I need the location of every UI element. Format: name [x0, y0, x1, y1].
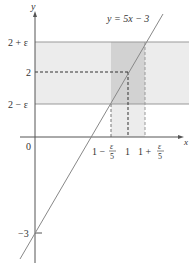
x-tick-right-num: ε: [158, 142, 162, 151]
x-tick-left-prefix: 1 −: [92, 146, 106, 157]
y-tick-center: 2: [26, 67, 31, 78]
x-tick-left-den: 5: [110, 152, 114, 161]
equation-label: y = 5x − 3: [106, 13, 149, 24]
y-axis-label: y: [30, 1, 36, 12]
x-tick-center: 1: [125, 146, 130, 157]
x-axis-label: x: [183, 137, 188, 147]
origin-label: 0: [26, 141, 31, 152]
y-tick-lower: 2 − ε: [8, 99, 28, 110]
x-tick-right-prefix: 1 +: [138, 146, 152, 157]
epsilon-delta-diagram: y x 0 y = 5x − 3 2 + ε 2 2 − ε −3 1 − ε …: [0, 0, 189, 263]
x-tick-right-den: 5: [158, 152, 162, 161]
y-tick-upper: 2 + ε: [8, 37, 28, 48]
y-tick-intercept: −3: [18, 228, 29, 239]
x-tick-left-num: ε: [110, 142, 114, 151]
